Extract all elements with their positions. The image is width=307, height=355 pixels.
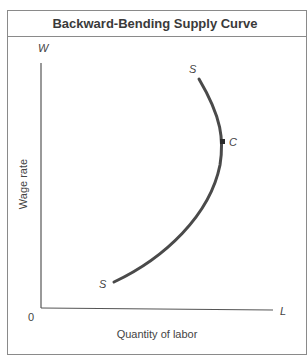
curve-label-bottom: S xyxy=(99,278,107,290)
x-axis-symbol: L xyxy=(280,305,286,317)
y-axis-symbol: W xyxy=(38,42,50,54)
point-c-label: C xyxy=(229,136,237,148)
origin-label: 0 xyxy=(28,311,34,323)
supply-curve xyxy=(114,79,222,282)
x-axis xyxy=(41,308,273,310)
curve-label-top: S xyxy=(189,63,197,75)
point-c-marker xyxy=(220,139,225,144)
y-axis-label: Wage rate xyxy=(17,159,29,209)
x-axis-label: Quantity of labor xyxy=(117,328,198,340)
